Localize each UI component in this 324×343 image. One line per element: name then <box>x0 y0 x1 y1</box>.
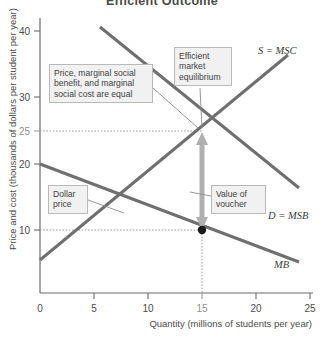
dollar-price-point <box>198 226 206 234</box>
chart-plot-area: 40 30 25 20 10 0 5 10 15 20 25 Price and… <box>0 0 324 343</box>
callout-leader-lines <box>88 88 211 213</box>
x-tick-0: 0 <box>37 303 43 314</box>
callout-price-equal: Price, marginal social benefit, and marg… <box>49 64 153 103</box>
y-tick-40: 40 <box>19 26 31 37</box>
callout-efficient-market-equilibrium: Efficient market equilibrium <box>174 47 232 86</box>
x-axis-ticks <box>94 293 310 299</box>
callout-value-of-voucher: Value of voucher <box>211 185 266 214</box>
callout-dollar-price: Dollar price <box>48 185 88 214</box>
y-tick-10: 10 <box>19 225 31 236</box>
value-of-voucher-arrow <box>196 132 208 230</box>
x-axis-label: Quantity (millions of students per year) <box>149 318 312 329</box>
y-tick-20: 20 <box>19 159 31 170</box>
x-tick-25: 25 <box>304 303 316 314</box>
chart-figure: Efficient Outcome 40 30 25 20 10 0 5 <box>0 0 324 343</box>
y-axis-ticks <box>34 31 40 230</box>
curve-label-marginal-benefit: MB <box>273 259 290 270</box>
x-tick-20: 20 <box>250 303 262 314</box>
x-tick-10: 10 <box>142 303 154 314</box>
y-axis-label: Price and cost (thousands of dollars per… <box>7 8 18 250</box>
curve-label-demand: D = MSB <box>267 210 309 221</box>
y-tick-25: 25 <box>19 126 31 137</box>
curve-label-supply: S = MSC <box>258 45 298 56</box>
x-tick-15: 15 <box>196 303 208 314</box>
y-tick-30: 30 <box>19 92 31 103</box>
x-tick-5: 5 <box>91 303 97 314</box>
